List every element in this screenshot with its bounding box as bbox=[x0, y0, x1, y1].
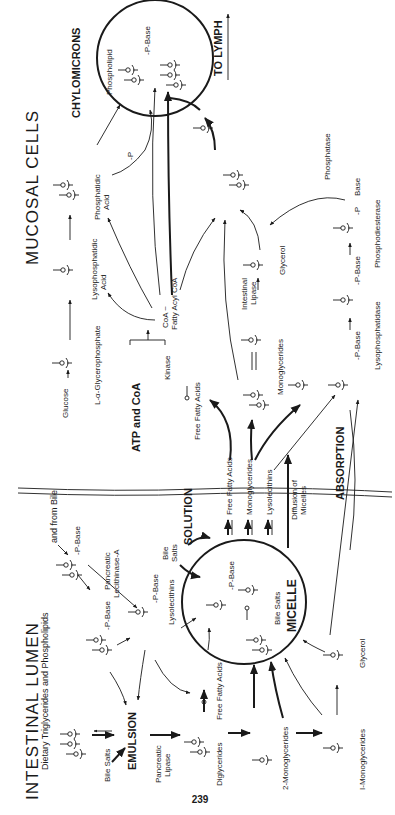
emulsion-label: EMULSION bbox=[126, 712, 138, 770]
svg-text:Acid: Acid bbox=[102, 194, 111, 210]
svg-text:-P: -P bbox=[126, 152, 135, 160]
svg-text:Glycerol: Glycerol bbox=[278, 245, 287, 275]
svg-text:Salts: Salts bbox=[170, 544, 179, 562]
svg-text:Pancreatic: Pancreatic bbox=[103, 552, 112, 590]
atp-coa-label: ATP and CoA bbox=[130, 383, 142, 452]
triglyceride-cell-molecule bbox=[243, 390, 269, 410]
bile-salts-label: Bile Salts bbox=[103, 749, 112, 782]
svg-text:Free Fatty Acids: Free Fatty Acids bbox=[193, 382, 202, 440]
equilibrium-arrows bbox=[228, 520, 272, 535]
svg-text:Diglycerides: Diglycerides bbox=[215, 742, 224, 786]
svg-text:Free Fatty Acids: Free Fatty Acids bbox=[215, 662, 224, 720]
chylomicrons-label: CHYLOMICRONS bbox=[70, 28, 82, 118]
svg-text:-P-Base: -P-Base bbox=[73, 526, 82, 555]
one-monoglyceride-molecule bbox=[323, 743, 343, 753]
svg-text:Diffusion of: Diffusion of bbox=[290, 479, 299, 520]
svg-text:Lipase: Lipase bbox=[249, 281, 258, 305]
svg-text:Phosphatidic: Phosphatidic bbox=[93, 174, 102, 220]
svg-text:-P-Base: -P-Base bbox=[103, 601, 112, 630]
free-fatty-acid-molecule bbox=[185, 386, 189, 400]
fat-digestion-diagram: INTESTINAL LUMEN MUCOSAL CELLS Dietary T… bbox=[0, 0, 395, 815]
svg-text:-P: -P bbox=[353, 207, 362, 215]
to-lymph-label: TO LYMPH bbox=[212, 20, 224, 76]
svg-text:-P-Base: -P-Base bbox=[353, 256, 362, 285]
dietary-label: Dietary Triglycerides and Phospholipids bbox=[40, 612, 50, 770]
svg-text:Acid: Acid bbox=[99, 274, 108, 290]
svg-text:Bile: Bile bbox=[161, 546, 170, 560]
svg-text:Glycerol: Glycerol bbox=[358, 638, 367, 668]
svg-text:L-α-Glycerophosphate: L-α-Glycerophosphate bbox=[93, 325, 102, 405]
svg-text:Pancreatic: Pancreatic bbox=[154, 745, 163, 783]
svg-text:Lecithinase-A: Lecithinase-A bbox=[112, 549, 121, 598]
micelle-label: MICELLE bbox=[285, 579, 299, 632]
lysolecithin-molecule bbox=[128, 607, 148, 617]
svg-text:Kinase: Kinase bbox=[163, 355, 172, 380]
lysolecithin-cell-molecule bbox=[328, 380, 348, 390]
svg-text:Phosphatase: Phosphatase bbox=[323, 133, 332, 180]
svg-text:Base: Base bbox=[353, 177, 362, 196]
absorption-label: ABSORPTION bbox=[334, 427, 346, 500]
glycerol-molecule bbox=[323, 650, 343, 660]
svg-text:Free Fatty Acids: Free Fatty Acids bbox=[225, 457, 234, 515]
svg-text:CoA ~: CoA ~ bbox=[161, 306, 170, 328]
diglyceride-molecule bbox=[184, 737, 210, 757]
triglyceride-molecule bbox=[60, 729, 86, 759]
svg-text:Glucose: Glucose bbox=[61, 388, 70, 418]
svg-text:-P-Base: -P-Base bbox=[227, 561, 236, 590]
chylomicron: Phospholipid -P-Base bbox=[97, 0, 213, 116]
svg-text:Intestinal: Intestinal bbox=[240, 278, 249, 310]
svg-text:Lysolecithins: Lysolecithins bbox=[265, 469, 274, 515]
svg-text:Lysophosphatidic: Lysophosphatidic bbox=[90, 238, 99, 300]
from-bile-label: and from Bile bbox=[49, 490, 59, 543]
svg-text:Lysophosphatidase: Lysophosphatidase bbox=[373, 301, 382, 370]
glycerol-cell-molecule bbox=[243, 260, 263, 270]
svg-text:Micelles: Micelles bbox=[299, 486, 308, 515]
two-monoglyceride-molecule bbox=[252, 755, 272, 765]
svg-text:Monoglycerides: Monoglycerides bbox=[245, 459, 254, 515]
phospholipid-molecule bbox=[56, 560, 82, 580]
page-number: 239 bbox=[192, 794, 209, 805]
svg-text:Phospholipid: Phospholipid bbox=[105, 49, 114, 95]
svg-text:Phosphodiesterase: Phosphodiesterase bbox=[373, 199, 382, 268]
svg-text:2-Monoglycerides: 2-Monoglycerides bbox=[281, 727, 290, 790]
micelle: MICELLE Bile Salts -P-Base bbox=[182, 540, 306, 664]
solution-label: SOLUTION bbox=[182, 488, 194, 545]
lysolecithins-label: Lysolecithins bbox=[167, 579, 176, 625]
svg-text:Lipase: Lipase bbox=[163, 753, 172, 777]
phospholipid-molecule bbox=[86, 635, 112, 655]
svg-text:-P-Base: -P-Base bbox=[151, 574, 160, 603]
svg-text:-P-Base: -P-Base bbox=[143, 26, 152, 55]
mucosal-title: MUCOSAL CELLS bbox=[23, 110, 42, 265]
svg-text:Bile Salts: Bile Salts bbox=[273, 592, 282, 625]
svg-text:-P-Base: -P-Base bbox=[353, 331, 362, 360]
svg-text:I-Monoglycerides: I-Monoglycerides bbox=[358, 729, 367, 790]
svg-text:Monoglycerides: Monoglycerides bbox=[276, 339, 285, 395]
